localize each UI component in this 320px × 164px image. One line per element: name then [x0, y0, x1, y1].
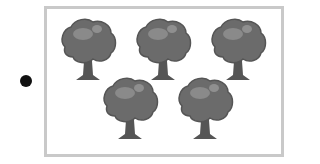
picture-frame	[44, 6, 284, 157]
tree-icon	[174, 76, 236, 144]
bullet-dot	[20, 75, 32, 87]
tree-icon	[57, 17, 119, 85]
tree-icon	[207, 17, 269, 85]
tree-icon	[132, 17, 194, 85]
tree-icon	[99, 76, 161, 144]
